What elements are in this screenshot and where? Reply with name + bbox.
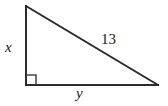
vertical-leg-label: x	[5, 40, 12, 55]
right-angle-marker-icon	[26, 75, 36, 85]
hypotenuse-line	[26, 6, 158, 85]
right-triangle-figure: x 13 y	[0, 0, 168, 106]
horizontal-leg-label: y	[76, 86, 83, 101]
hypotenuse-label: 13	[101, 32, 116, 47]
triangle-drawing	[0, 0, 168, 106]
